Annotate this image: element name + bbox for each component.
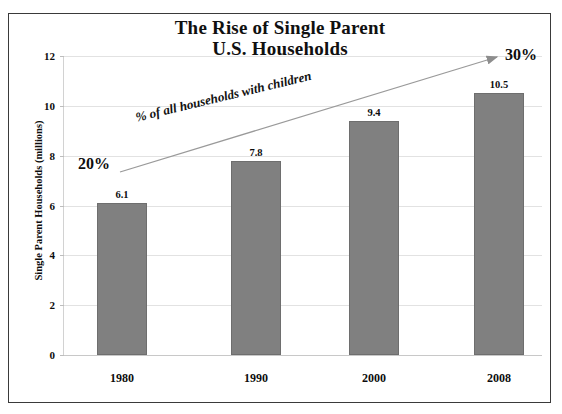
- y-tick-label-0: 0: [50, 349, 56, 361]
- y-tick-label-12: 12: [44, 50, 55, 62]
- gridline-8: 8: [64, 156, 542, 157]
- chart-title: The Rise of Single Parent U.S. Household…: [80, 17, 480, 59]
- trend-start-percent: 20%: [78, 155, 110, 173]
- bar-value-2000: 9.4: [367, 107, 380, 118]
- y-tick-label-2: 2: [50, 299, 56, 311]
- bar-value-2008: 10.5: [490, 79, 508, 90]
- plot-area: 12 10 8 6 4 2 0 6.1 1980 7.8 1990 9.4 20…: [63, 56, 542, 355]
- gridline-0: 0: [64, 355, 542, 356]
- y-tick-label-4: 4: [50, 249, 56, 261]
- x-tick-label-2008: 2008: [487, 371, 511, 386]
- y-tick-label-8: 8: [50, 150, 56, 162]
- bar-2008[interactable]: 10.5 2008: [474, 93, 524, 355]
- x-tick-label-1980: 1980: [110, 371, 134, 386]
- y-axis-title: Single Parent Households (millions): [33, 86, 44, 316]
- x-tick-label-2000: 2000: [362, 371, 386, 386]
- gridline-10: 10: [64, 106, 542, 107]
- x-tick-label-1990: 1990: [244, 371, 268, 386]
- y-tick-label-6: 6: [50, 200, 56, 212]
- bar-1980[interactable]: 6.1 1980: [97, 203, 147, 355]
- chart-title-line-1: The Rise of Single Parent: [80, 17, 480, 38]
- bar-2000[interactable]: 9.4 2000: [349, 121, 399, 355]
- chart-figure: The Rise of Single Parent U.S. Household…: [0, 0, 562, 414]
- y-tick-label-10: 10: [44, 100, 55, 112]
- bar-value-1990: 7.8: [249, 147, 262, 158]
- gridline-12: 12: [64, 56, 542, 57]
- bar-value-1980: 6.1: [115, 189, 128, 200]
- trend-end-percent: 30%: [505, 46, 537, 64]
- bar-1990[interactable]: 7.8 1990: [231, 161, 281, 355]
